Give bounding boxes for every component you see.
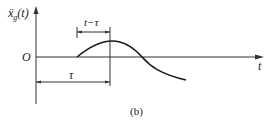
y-axis-label-argument: (t) [17, 6, 28, 20]
origin-label: O [22, 50, 31, 64]
figure-caption: (b) [130, 105, 143, 118]
t-minus-tau-arrow-left-icon [77, 31, 82, 34]
tau-arrow-left-icon [36, 81, 41, 84]
acceleration-curve [77, 41, 186, 80]
tau-label: τ [69, 68, 74, 82]
tau-arrow-right-icon [105, 81, 110, 84]
x-axis-label: t [258, 59, 262, 73]
t-minus-tau-label: t−τ [84, 16, 99, 28]
y-axis-label: ẍg(t) [7, 6, 29, 22]
ground-acceleration-diagram: ẍg(t) O t t−τ τ (b) [0, 0, 278, 125]
t-minus-tau-arrow-right-icon [105, 31, 110, 34]
y-axis-arrow-icon [34, 6, 39, 14]
